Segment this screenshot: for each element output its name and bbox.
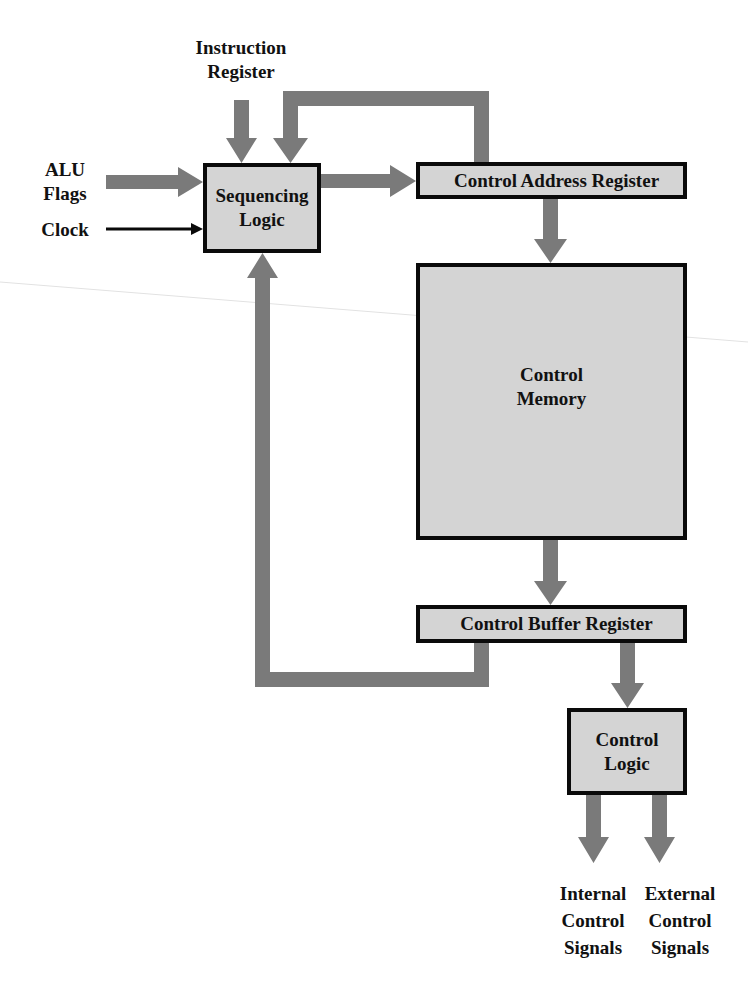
arrow-alu-flags-to-sequencing bbox=[106, 167, 203, 197]
arrow-car-to-control-memory bbox=[534, 199, 567, 263]
external-control-signals-label: External Control Signals bbox=[630, 880, 730, 961]
control-buffer-register-block[interactable]: Control Buffer Register bbox=[416, 605, 687, 643]
clock-arrow bbox=[106, 223, 203, 235]
instruction-register-label: Instruction Register bbox=[186, 36, 296, 84]
arrow-to-external-signals bbox=[644, 795, 675, 863]
arrow-to-internal-signals bbox=[578, 795, 609, 863]
control-address-register-block[interactable]: Control Address Register bbox=[416, 162, 687, 199]
arrow-sequencing-to-car bbox=[321, 165, 416, 197]
arrow-car-to-sequencing-loop bbox=[273, 91, 489, 163]
arrow-cbr-to-control-logic bbox=[611, 643, 644, 708]
clock-label: Clock bbox=[30, 218, 100, 242]
alu-flags-label: ALU Flags bbox=[30, 158, 100, 206]
sequencing-logic-block[interactable]: Sequencing Logic bbox=[203, 163, 321, 253]
control-logic-block[interactable]: Control Logic bbox=[567, 708, 687, 795]
arrow-control-memory-to-cbr bbox=[534, 540, 567, 605]
control-memory-block[interactable]: Control Memory bbox=[416, 263, 687, 540]
arrow-ir-to-sequencing bbox=[226, 100, 257, 163]
